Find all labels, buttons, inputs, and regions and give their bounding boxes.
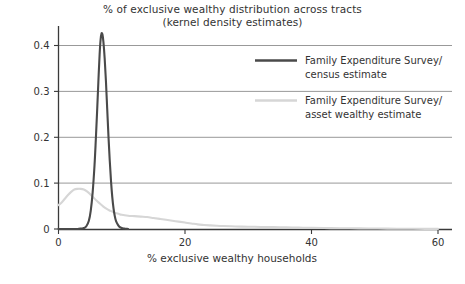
series-line [59,189,439,229]
x-tick-label: 0 [55,237,61,248]
series-line [59,33,129,229]
x-tick-labels: 0204060 [55,237,444,248]
chart-container: % of exclusive wealthy distribution acro… [0,0,465,284]
legend-label-asset-line1: Family Expenditure Survey/ [305,95,443,106]
y-tick-label: 0.1 [34,178,50,189]
kernel-density-plot: 00.10.20.30.4 0204060 % exclusive wealth… [0,0,465,284]
legend-label-census-line1: Family Expenditure Survey/ [305,55,443,66]
y-tick-labels: 00.10.20.30.4 [34,40,50,235]
y-tick-label: 0 [43,224,49,235]
y-tick-marks [54,46,59,230]
legend: Family Expenditure Survey/ census estima… [255,55,443,120]
y-tick-label: 0.2 [34,132,50,143]
x-tick-label: 60 [432,237,445,248]
x-tick-label: 40 [305,237,318,248]
x-axis-title: % exclusive wealthy households [147,252,317,264]
y-tick-label: 0.4 [34,40,50,51]
y-tick-label: 0.3 [34,86,50,97]
x-tick-label: 20 [179,237,192,248]
legend-label-asset-line2: asset wealthy estimate [305,109,421,120]
legend-label-census-line2: census estimate [305,69,387,80]
